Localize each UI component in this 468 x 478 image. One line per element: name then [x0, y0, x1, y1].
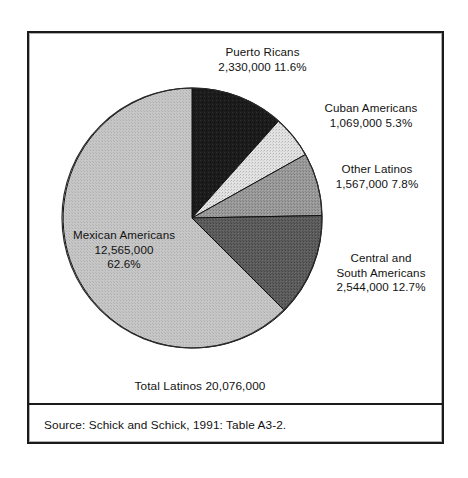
slice-label-central-south-americans: Central and South Americans 2,544,000 12…	[305, 251, 457, 295]
slice-label-value: 2,544,000 12.7%	[305, 280, 457, 295]
slice-label-cuban-americans: Cuban Americans 1,069,000 5.3%	[281, 101, 461, 130]
slice-label-percent: 62.6%	[56, 257, 192, 272]
total-latinos-label: Total Latinos 20,076,000	[60, 379, 340, 394]
total-latinos-text: Total Latinos 20,076,000	[60, 379, 340, 394]
slice-label-name: Other Latinos	[296, 162, 458, 177]
slice-label-value: 12,565,000	[56, 243, 192, 258]
slice-label-other-latinos: Other Latinos 1,567,000 7.8%	[296, 162, 458, 191]
slice-label-puerto-ricans: Puerto Ricans 2,330,000 11.6%	[170, 45, 355, 74]
figure-root: Puerto Ricans 2,330,000 11.6% Cuban Amer…	[0, 0, 468, 478]
source-note-text: Source: Schick and Schick, 1991: Table A…	[44, 418, 404, 433]
slice-label-name-line2: South Americans	[305, 266, 457, 281]
source-divider	[28, 403, 443, 405]
slice-label-name-line1: Central and	[305, 251, 457, 266]
slice-label-value: 2,330,000 11.6%	[170, 60, 355, 75]
slice-label-name: Mexican Americans	[56, 228, 192, 243]
slice-label-value: 1,567,000 7.8%	[296, 177, 458, 192]
slice-label-mexican-americans: Mexican Americans 12,565,000 62.6%	[56, 228, 192, 272]
slice-label-name: Cuban Americans	[281, 101, 461, 116]
slice-label-value: 1,069,000 5.3%	[281, 116, 461, 131]
source-note: Source: Schick and Schick, 1991: Table A…	[44, 418, 404, 433]
slice-label-name: Puerto Ricans	[170, 45, 355, 60]
